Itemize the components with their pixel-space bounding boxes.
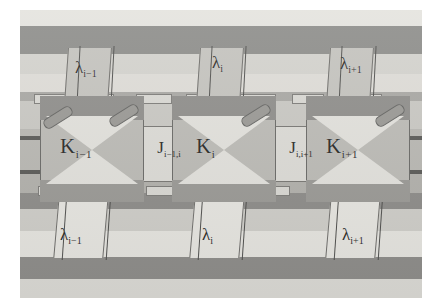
label-lambda-top-center-base: λ [212,53,220,72]
label-lambda-top-right-sub: i+1 [348,64,361,75]
label-j-left-base: J [157,138,164,157]
label-lambda-bottom-left-sub: i−1 [68,235,81,246]
label-lambda-top-left: λi−1 [75,58,97,79]
label-lambda-bottom-center: λi [202,225,213,246]
label-lambda-bottom-center-sub: i [210,235,213,246]
label-j-right-base: J [289,138,296,157]
label-j-left-sub: i−1,i [164,149,181,159]
figure-canvas: Ki−1 Ki Ki+1 Ji−1,i Ji,i+1 λi−1 λi λi+1 … [0,0,442,308]
label-lambda-top-center: λi [212,53,223,74]
label-lambda-top-right-base: λ [340,54,348,73]
band-lower-dark [20,257,422,279]
label-lambda-bottom-left: λi−1 [60,225,82,246]
label-lambda-bottom-right-base: λ [342,225,350,244]
label-lambda-bottom-center-base: λ [202,225,210,244]
label-lambda-top-left-base: λ [75,58,83,77]
label-lambda-top-center-sub: i [220,63,223,74]
label-lambda-bottom-right: λi+1 [342,225,364,246]
band-bottom-light [20,279,422,298]
label-k-center-sub: i [212,148,216,160]
label-k-left-base: K [60,134,76,158]
label-k-right-sub: i+1 [342,148,358,160]
label-j-right: Ji,i+1 [266,138,336,159]
label-lambda-top-left-sub: i−1 [83,68,96,79]
label-j-left: Ji−1,i [134,138,204,159]
label-lambda-bottom-left-base: λ [60,225,68,244]
label-k-left: Ki−1 [60,134,92,160]
diagram-image: Ki−1 Ki Ki+1 Ji−1,i Ji,i+1 λi−1 λi λi+1 … [20,10,422,298]
label-lambda-bottom-right-sub: i+1 [350,235,363,246]
label-lambda-top-right: λi+1 [340,54,362,75]
label-j-right-sub: i,i+1 [296,149,313,159]
band-top-light [20,10,422,26]
label-k-left-sub: i−1 [76,148,92,160]
unit-cell-k-left[interactable] [40,96,144,202]
